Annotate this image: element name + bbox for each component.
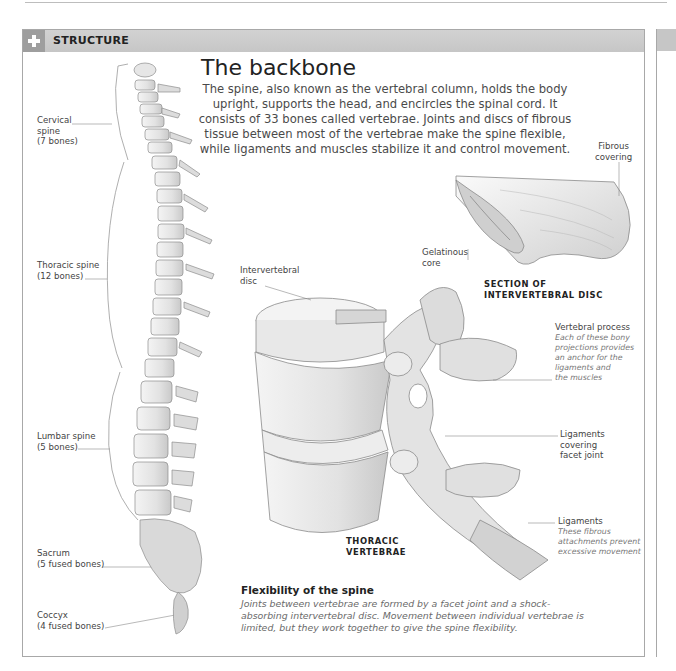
- label-cervical: Cervical spine (7 bones): [37, 115, 78, 147]
- label-text: Fibrous: [595, 141, 632, 152]
- label-title: Ligaments: [558, 516, 641, 527]
- label-text: covering: [595, 152, 632, 163]
- label-gelatinous-core: Gelatinous core: [422, 247, 468, 268]
- label-desc: projections provides: [555, 343, 634, 353]
- label-text: Thoracic spine: [37, 260, 99, 271]
- label-text: core: [422, 258, 468, 269]
- label-thoracic: Thoracic spine (12 bones): [37, 260, 99, 281]
- flexibility-heading: Flexibility of the spine: [241, 584, 374, 596]
- label-text: Sacrum: [37, 548, 104, 559]
- flexibility-text: Joints between vertebrae are formed by a…: [241, 598, 586, 634]
- caption-text: SECTION OF: [484, 279, 603, 290]
- label-title: Vertebral process: [555, 322, 634, 333]
- label-text: Cervical: [37, 115, 78, 126]
- label-text: Coccyx: [37, 610, 104, 621]
- label-desc: the muscles: [555, 373, 634, 383]
- label-coccyx: Coccyx (4 fused bones): [37, 610, 104, 631]
- caption-text: INTERVERTEBRAL DISC: [484, 290, 603, 301]
- label-sacrum: Sacrum (5 fused bones): [37, 548, 104, 569]
- label-text: facet joint: [560, 450, 605, 461]
- caption-text: THORACIC: [346, 536, 406, 547]
- label-desc: Each of these bony: [555, 333, 634, 343]
- label-text: disc: [240, 276, 299, 287]
- region-braces: [107, 64, 138, 520]
- label-desc: These fibrous: [558, 527, 641, 537]
- disc-section-illustration: [456, 176, 630, 264]
- label-fibrous-covering: Fibrous covering: [595, 141, 632, 162]
- label-desc: attachments prevent: [558, 537, 641, 547]
- label-ligaments: Ligaments These fibrous attachments prev…: [558, 516, 641, 557]
- label-text: Ligaments: [560, 429, 605, 440]
- label-desc: excessive movement: [558, 547, 641, 557]
- label-text: Intervertebral: [240, 265, 299, 276]
- label-desc: an anchor for the: [555, 353, 634, 363]
- label-facet-ligaments: Ligaments covering facet joint: [560, 429, 605, 461]
- label-vertebral-process: Vertebral process Each of these bony pro…: [555, 322, 634, 383]
- label-text: (5 fused bones): [37, 559, 104, 570]
- label-desc: ligaments and: [555, 363, 634, 373]
- intro-paragraph: The spine, also known as the vertebral c…: [195, 82, 575, 157]
- label-text: Gelatinous: [422, 247, 468, 258]
- label-text: spine: [37, 126, 78, 137]
- label-text: (7 bones): [37, 136, 78, 147]
- label-text: Lumbar spine: [37, 431, 96, 442]
- label-text: (4 fused bones): [37, 621, 104, 632]
- label-text: (12 bones): [37, 271, 99, 282]
- page-title: The backbone: [201, 55, 356, 80]
- caption-disc-section: SECTION OF INTERVERTEBRAL DISC: [484, 279, 603, 301]
- label-intervertebral-disc: Intervertebral disc: [240, 265, 299, 286]
- caption-text: VERTEBRAE: [346, 547, 406, 558]
- label-lumbar: Lumbar spine (5 bones): [37, 431, 96, 452]
- label-text: (5 bones): [37, 442, 96, 453]
- label-text: covering: [560, 440, 605, 451]
- caption-thoracic-vertebrae: THORACIC VERTEBRAE: [346, 536, 406, 558]
